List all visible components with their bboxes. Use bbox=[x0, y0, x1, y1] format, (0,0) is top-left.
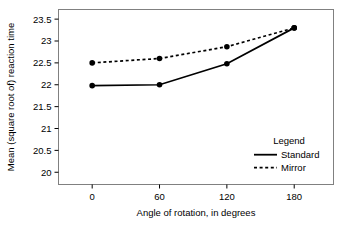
y-axis-tick-label: 22 bbox=[41, 79, 52, 90]
x-axis-tick-label: 60 bbox=[154, 191, 165, 202]
legend-title: Legend bbox=[273, 135, 305, 146]
data-point-mirror-180 bbox=[291, 25, 297, 31]
y-axis-tick-label: 20 bbox=[41, 167, 52, 178]
y-axis-tick-label: 23.5 bbox=[33, 14, 52, 25]
data-point-mirror-120 bbox=[224, 44, 230, 50]
y-axis-tick-label: 21.5 bbox=[33, 101, 52, 112]
x-axis-tick-label: 180 bbox=[286, 191, 302, 202]
chart-figure: 2020.52121.52222.52323.5060120180Angle o… bbox=[0, 0, 349, 236]
data-point-standard-120 bbox=[224, 61, 230, 67]
line-chart: 2020.52121.52222.52323.5060120180Angle o… bbox=[0, 0, 349, 236]
y-axis-title: Mean (square root of) reaction time bbox=[5, 23, 16, 171]
y-axis-tick-label: 20.5 bbox=[33, 145, 52, 156]
x-axis-tick-label: 0 bbox=[90, 191, 95, 202]
legend-label-mirror: Mirror bbox=[281, 162, 306, 173]
data-point-standard-0 bbox=[89, 83, 95, 89]
data-point-mirror-0 bbox=[89, 60, 95, 66]
y-axis-tick-label: 23 bbox=[41, 35, 52, 46]
legend-label-standard: Standard bbox=[281, 149, 320, 160]
data-point-mirror-60 bbox=[157, 56, 163, 62]
x-axis-tick-label: 120 bbox=[219, 191, 235, 202]
y-axis-tick-label: 22.5 bbox=[33, 57, 52, 68]
data-point-standard-60 bbox=[157, 82, 163, 88]
x-axis-title: Angle of rotation, in degrees bbox=[137, 207, 256, 218]
y-axis-tick-label: 21 bbox=[41, 123, 52, 134]
